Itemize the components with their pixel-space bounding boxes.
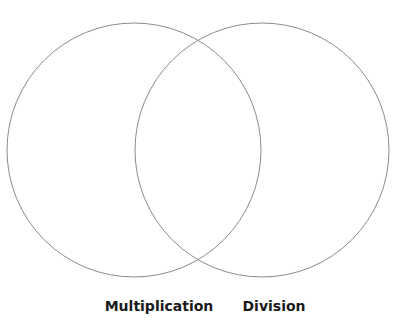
multiplication-label: Multiplication (105, 297, 214, 315)
division-circle (135, 23, 389, 277)
venn-diagram (0, 0, 408, 322)
multiplication-circle (7, 23, 261, 277)
division-label: Division (242, 297, 305, 315)
